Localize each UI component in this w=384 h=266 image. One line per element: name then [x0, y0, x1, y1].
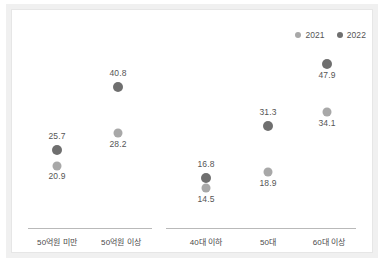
legend-label-2022: 2022	[347, 30, 366, 40]
legend-dot-icon-2021	[295, 32, 301, 38]
chart-legend: 2021 2022	[295, 30, 366, 40]
legend-item-2022[interactable]: 2022	[337, 30, 366, 40]
chart-card	[11, 9, 373, 253]
axis-label-category-3: 50대	[260, 236, 276, 247]
axis-label-category-4: 60대 이상	[313, 236, 346, 247]
legend-dot-icon-2022	[337, 32, 343, 38]
legend-label-2021: 2021	[305, 30, 324, 40]
legend-item-2021[interactable]: 2021	[295, 30, 324, 40]
axis-label-category-0: 50억원 미만	[37, 236, 77, 247]
axis-line-group-age	[166, 228, 356, 229]
axis-label-category-1: 50억원 이상	[101, 236, 141, 247]
scatter-chart: 2021 2022 20.925.728.240.814.516.818.931…	[0, 0, 384, 266]
axis-line-group-revenue	[28, 228, 152, 229]
axis-label-category-2: 40대 이하	[190, 236, 223, 247]
